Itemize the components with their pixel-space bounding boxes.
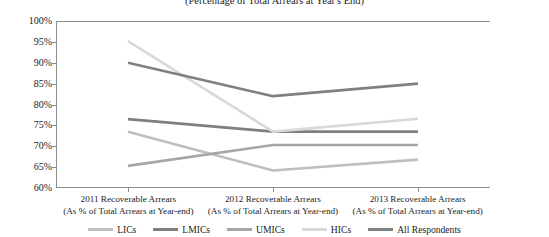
x-axis-category-label: 2013 Recoverable Arrears(As % of Total A… xyxy=(345,193,490,217)
legend-line-swatch xyxy=(368,228,393,231)
x-tick-mark xyxy=(128,188,129,192)
y-axis-labels: 100%95%90%85%80%75%70%65%60% xyxy=(0,21,52,188)
x-label-sublabel: (As % of Total Arrears at Year-end) xyxy=(201,205,346,217)
y-tick-label: 85% xyxy=(2,79,52,89)
series-line-lmics xyxy=(128,119,418,132)
legend-label: LMICs xyxy=(182,225,210,235)
plot-area xyxy=(56,21,490,188)
legend-line-swatch xyxy=(153,228,178,231)
legend-label: UMICs xyxy=(256,225,285,235)
x-tick-mark xyxy=(418,188,419,192)
series-lines xyxy=(56,21,490,188)
y-tick-label: 95% xyxy=(2,37,52,47)
legend-label: All Respondents xyxy=(397,225,461,235)
chart-title: (Percentage of Total Arrears at Year's E… xyxy=(0,0,549,7)
y-tick-label: 90% xyxy=(2,58,52,68)
chart-figure: (Percentage of Total Arrears at Year's E… xyxy=(0,0,549,237)
legend-item-all-respondents[interactable]: All Respondents xyxy=(368,225,461,235)
legend-item-umics[interactable]: UMICs xyxy=(227,225,285,235)
x-label-year: 2013 Recoverable Arrears xyxy=(345,193,490,205)
y-tick-label: 80% xyxy=(2,100,52,110)
series-line-lics xyxy=(128,132,418,171)
y-tick-label: 70% xyxy=(2,141,52,151)
y-tick-label: 65% xyxy=(2,162,52,172)
legend-item-lmics[interactable]: LMICs xyxy=(153,225,210,235)
x-label-sublabel: (As % of Total Arrears at Year-end) xyxy=(56,205,201,217)
x-label-sublabel: (As % of Total Arrears at Year-end) xyxy=(345,205,490,217)
legend-line-swatch xyxy=(88,228,113,231)
x-axis-category-label: 2012 Recoverable Arrears(As % of Total A… xyxy=(201,193,346,217)
legend-line-swatch xyxy=(227,228,252,231)
y-tick-label: 100% xyxy=(2,16,52,26)
x-label-year: 2012 Recoverable Arrears xyxy=(201,193,346,205)
y-tick-label: 75% xyxy=(2,120,52,130)
x-tick-mark xyxy=(273,188,274,192)
chart-legend: LICsLMICsUMICsHICsAll Respondents xyxy=(0,222,549,237)
x-label-year: 2011 Recoverable Arrears xyxy=(56,193,201,205)
x-axis-category-label: 2011 Recoverable Arrears(As % of Total A… xyxy=(56,193,201,217)
legend-label: LICs xyxy=(117,225,136,235)
legend-label: HICs xyxy=(331,225,351,235)
legend-item-lics[interactable]: LICs xyxy=(88,225,136,235)
legend-line-swatch xyxy=(302,228,327,231)
x-axis-labels: 2011 Recoverable Arrears(As % of Total A… xyxy=(0,193,549,221)
y-tick-label: 60% xyxy=(2,183,52,193)
legend-item-hics[interactable]: HICs xyxy=(302,225,351,235)
